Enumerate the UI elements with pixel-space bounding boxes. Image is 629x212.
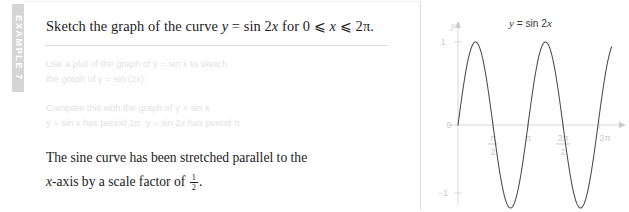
example-content-panel: Sketch the graph of the curve y = sin 2x… [24,1,421,210]
x-axis-arrow-icon [619,122,626,128]
curve-label: y = sin 2x [508,17,552,29]
faded-note-block-1: Use a plot of the graph of y = sin x to … [46,57,227,87]
faded-note-line: y = sin x has period 2π. y = sin 2x has … [46,116,243,131]
y-tick-label-0: 0 [446,120,451,130]
fraction-denominator: 2 [190,182,198,192]
conclusion-line-2-pre: -axis by a scale factor of [52,174,189,189]
y-axis-label: y [450,21,456,31]
question-equals: = sin 2 [228,18,272,34]
question-prefix: Sketch the graph of the curve [46,18,222,34]
fraction-numerator: 1 [190,173,198,182]
faded-note-block-2: Compare this with the graph of y = sin x… [46,101,243,131]
y-tick-label-minus-1: −1 [438,188,448,198]
conclusion-text: The sine curve has been stretched parall… [46,146,307,194]
x-tick-label-three-half-pi: 3π 2 [556,133,570,157]
graph-figure: y 1 0 −1 π 2 π 3π 2 2π y = sin 2x [430,0,629,212]
svg-text:3π: 3π [557,133,568,143]
scale-factor-fraction: 12 [190,173,198,192]
faded-note-line: the graph of y = sin (2x): [46,72,227,87]
faded-note-line: Use a plot of the graph of y = sin x to … [46,57,227,72]
svg-text:2: 2 [490,147,495,157]
y-tick-label-1: 1 [440,37,445,47]
question-range-end: ⩽ 2π. [336,18,374,34]
sine-curve-chart: y 1 0 −1 π 2 π 3π 2 2π y = sin 2x [430,0,629,212]
x-tick-label-two-pi: 2π [599,133,610,143]
faded-note-line: Compare this with the graph of y = sin x [46,101,243,116]
conclusion-line-2: x-axis by a scale factor of 12. [46,170,307,194]
conclusion-line-1: The sine curve has been stretched parall… [46,146,307,170]
heading-divider [45,45,388,46]
example-tab-label: EXAMPLE 7 [14,15,24,80]
question-range-text: for 0 ⩽ [278,18,329,34]
conclusion-line-2-end: . [199,174,202,189]
question-heading: Sketch the graph of the curve y = sin 2x… [46,18,374,35]
y-axis-arrow-icon [455,21,461,28]
svg-text:2: 2 [560,147,565,157]
